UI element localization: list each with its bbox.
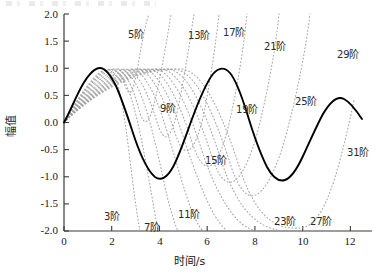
taylor-curve-9 [64,14,171,123]
taylor-curve-11 [64,69,178,231]
y-tick-label--1.5: -1.5 [14,197,58,209]
annotation-order-9: 9阶 [160,100,176,115]
y-tick-label--1.0: -1.0 [14,170,58,182]
taylor-curve-25 [64,14,279,182]
annotation-order-15: 15阶 [205,152,227,167]
annotation-order-29: 29阶 [337,46,359,61]
x-tick-label-4: 4 [150,235,170,247]
y-tick-label--2.0: -2.0 [14,224,58,236]
annotation-order-3: 3阶 [104,208,120,223]
annotation-order-17: 17阶 [223,24,245,39]
annotation-order-27: 27阶 [310,213,332,228]
y-tick-label-2.0: 2.0 [18,8,58,20]
taylor-curve-3 [64,70,140,231]
annotation-order-25: 25阶 [295,93,317,108]
x-tick-label-2: 2 [102,235,122,247]
annotation-order-7: 7阶 [144,219,160,234]
x-axis-title: 时间/s [0,252,379,268]
x-axis-ticks [64,226,350,231]
annotation-order-31: 31阶 [347,144,369,159]
x-tick-label-0: 0 [54,235,74,247]
taylor-series-approximation-chart: 2.0 1.5 1.0 0.5 0.0 -0.5 -1.0 -1.5 -2.0 … [0,0,379,275]
y-tick-label-1.5: 1.5 [18,35,58,47]
x-tick-label-8: 8 [245,235,265,247]
taylor-approximation-curves [64,14,354,231]
y-tick-label-1.0: 1.0 [18,62,58,74]
taylor-curve-23 [64,69,257,231]
axis-lines [64,14,372,231]
y-axis-title: 幅值 [2,106,18,146]
annotation-order-13: 13阶 [188,27,210,42]
annotation-order-19: 19阶 [236,101,258,116]
annotation-order-23: 23阶 [274,213,296,228]
x-tick-label-10: 10 [293,235,313,247]
annotation-order-21: 21阶 [264,38,286,53]
y-tick-label-0.5: 0.5 [18,89,58,101]
x-tick-label-12: 12 [340,235,360,247]
y-tick-label--0.5: -0.5 [14,143,58,155]
annotation-order-5: 5阶 [128,26,144,41]
y-tick-label-0.0: 0.0 [18,116,58,128]
taylor-curve-27 [64,69,286,231]
x-tick-label-6: 6 [197,235,217,247]
annotation-order-11: 11阶 [178,206,200,221]
